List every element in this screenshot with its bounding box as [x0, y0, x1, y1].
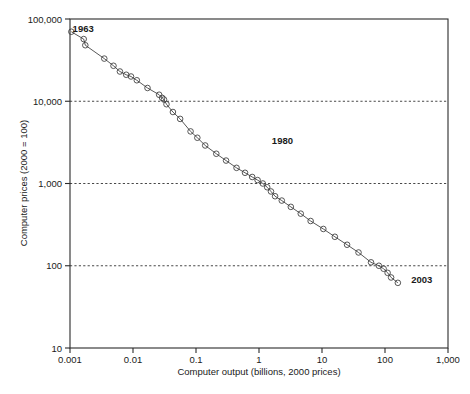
data-point	[164, 101, 170, 107]
data-point	[356, 250, 362, 256]
data-point	[234, 165, 240, 171]
y-tick-label: 100,000	[28, 14, 62, 25]
x-tick-label: 0.01	[124, 354, 143, 365]
data-point	[368, 260, 374, 266]
data-point	[117, 69, 123, 75]
annotation-label: 1980	[272, 135, 293, 146]
data-point	[101, 56, 107, 62]
figure-computer-prices-vs-output: 0.0010.010.11101001,000 101001,00010,000…	[0, 0, 470, 394]
data-point	[298, 211, 304, 217]
y-tick-label: 1,000	[38, 178, 62, 189]
data-point	[242, 170, 248, 176]
x-tick-label: 100	[377, 354, 393, 365]
data-point	[321, 226, 327, 232]
x-tick-label: 0.001	[58, 354, 82, 365]
data-point	[188, 129, 194, 135]
y-axis-title: Computer prices (2000 = 100)	[18, 120, 29, 246]
data-point	[332, 234, 338, 240]
data-point	[249, 174, 255, 180]
x-tick-label: 1,000	[436, 354, 460, 365]
data-point	[128, 74, 134, 80]
x-axis-title: Computer output (billions, 2000 prices)	[177, 366, 340, 377]
data-point	[279, 198, 285, 204]
data-point	[388, 275, 394, 281]
data-point	[395, 280, 401, 286]
data-point	[255, 177, 261, 183]
data-point	[344, 242, 350, 248]
data-point	[223, 158, 229, 164]
data-point	[268, 189, 274, 195]
data-point	[308, 218, 314, 224]
data-point	[213, 151, 219, 157]
data-point	[170, 109, 176, 115]
annotation-label: 2003	[411, 274, 432, 285]
data-point	[195, 135, 201, 141]
data-point	[81, 36, 87, 42]
data-point	[111, 63, 117, 69]
y-tick-label: 10	[51, 343, 62, 354]
y-tick-label: 10,000	[33, 96, 62, 107]
data-point	[272, 193, 278, 199]
x-tick-label: 0.1	[189, 354, 202, 365]
y-tick-label: 100	[46, 260, 62, 271]
data-point	[202, 143, 208, 149]
x-tick-label: 1	[256, 354, 261, 365]
annotation-label: 1963	[73, 23, 94, 34]
data-point	[177, 116, 183, 122]
data-point	[134, 77, 140, 83]
x-tick-label: 10	[317, 354, 328, 365]
data-point	[288, 204, 294, 210]
data-point	[83, 42, 89, 48]
data-point	[145, 85, 151, 91]
chart-canvas: 0.0010.010.11101001,000 101001,00010,000…	[0, 0, 470, 394]
